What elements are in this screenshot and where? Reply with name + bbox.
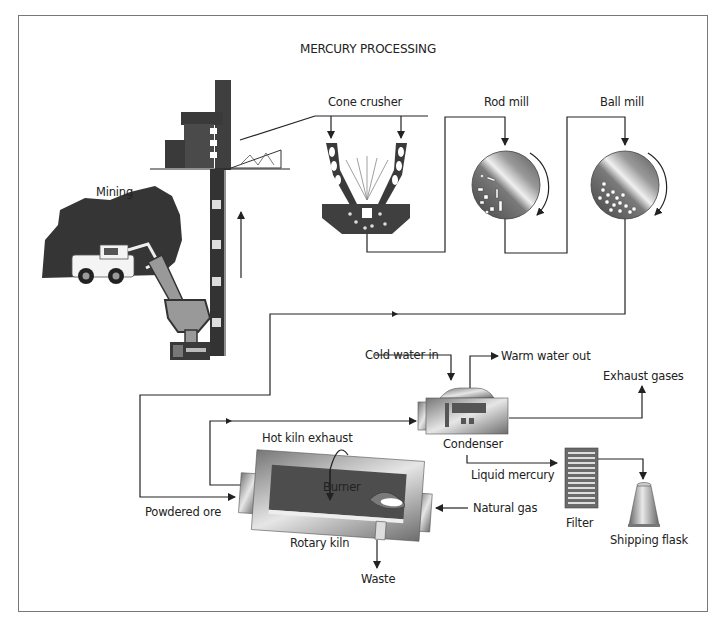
label-ball-mill: Ball mill [600,95,644,109]
shipping-flask [628,483,660,528]
label-rotary-kiln: Rotary kiln [290,536,349,550]
label-natural-gas: Natural gas [473,501,537,515]
label-cone-crusher: Cone crusher [328,95,402,109]
label-hot-kiln-exhaust: Hot kiln exhaust [262,431,352,445]
label-powdered-ore: Powdered ore [145,505,221,519]
condenser [375,355,508,434]
label-condenser: Condenser [443,437,503,451]
mining-scene [42,186,210,360]
label-cold-water-in: Cold water in [365,348,439,362]
ball-mill [591,151,667,219]
diagram-title: MERCURY PROCESSING [300,42,436,56]
filter [565,448,598,508]
label-warm-water-out: Warm water out [501,349,591,363]
rotary-kiln [237,449,434,543]
cone-crusher [322,116,410,234]
label-mining: Mining [96,185,133,199]
label-filter: Filter [566,516,593,530]
label-waste: Waste [361,572,395,586]
label-liquid-mercury: Liquid mercury [471,468,554,482]
label-burner: Burner [323,480,361,494]
label-shipping-flask: Shipping flask [610,533,688,547]
label-exhaust-gases: Exhaust gases [603,369,684,383]
rod-mill [472,151,549,219]
label-rod-mill: Rod mill [484,95,529,109]
